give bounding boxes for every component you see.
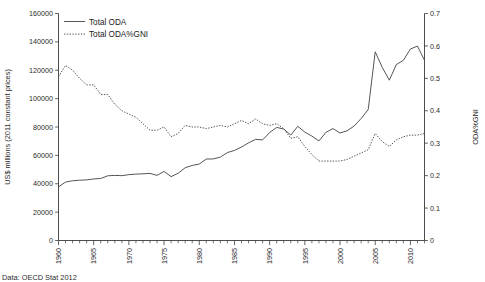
y-tick-label: 40000: [33, 179, 53, 188]
y2-tick-label: 0.4: [430, 106, 440, 115]
y2-axis-title: ODA%GNI: [471, 109, 480, 145]
source-note-text: Data: OECD Stat 2012: [2, 273, 77, 282]
x-tick-label: 2010: [406, 248, 415, 264]
y-tick-label: 140000: [29, 37, 53, 46]
y-tick-label: 20000: [33, 208, 53, 217]
y2-tick-label: 0: [430, 236, 434, 245]
data-series-group: [59, 46, 425, 187]
y-axis-title: US$ millions (2011 constant prices): [3, 69, 12, 185]
x-tick-label: 2000: [336, 248, 345, 264]
axis-titles: US$ millions (2011 constant prices)ODA%G…: [3, 69, 480, 185]
y-axis-ticks: 0200004000060000800001000001200001400001…: [29, 9, 58, 245]
y2-tick-label: 0.7: [430, 9, 440, 18]
y2-tick-label: 0.5: [430, 74, 440, 83]
y-tick-label: 100000: [29, 94, 53, 103]
x-tick-label: 1965: [89, 248, 98, 264]
x-tick-label: 1980: [195, 248, 204, 264]
x-axis-ticks: 1960196519701975198019851990199520002005…: [54, 241, 424, 265]
legend-label: Total ODA%GNI: [89, 30, 148, 39]
x-tick-label: 1970: [125, 248, 134, 264]
chart-legend: Total ODATotal ODA%GNI: [64, 18, 148, 40]
x-tick-label: 2005: [371, 248, 380, 264]
legend-label: Total ODA: [89, 18, 127, 27]
y-tick-label: 80000: [33, 123, 53, 132]
y2-tick-label: 0.1: [430, 204, 440, 213]
x-tick-label: 1975: [160, 248, 169, 264]
x-tick-label: 1960: [54, 248, 63, 264]
source-note: Data: OECD Stat 2012: [2, 273, 77, 282]
y-tick-label: 120000: [29, 66, 53, 75]
y2-tick-label: 0.6: [430, 42, 440, 51]
x-tick-label: 1985: [230, 248, 239, 264]
y2-tick-label: 0.3: [430, 139, 440, 148]
y-tick-label: 60000: [33, 151, 53, 160]
y2-tick-label: 0.2: [430, 171, 440, 180]
line-chart: 0200004000060000800001000001200001400001…: [0, 0, 485, 282]
secondary-y-axis-ticks: 00.10.20.30.40.50.60.7: [425, 9, 441, 245]
series-line-solid: [59, 46, 425, 187]
x-tick-label: 1995: [301, 248, 310, 264]
chart-axes: [59, 14, 425, 241]
x-tick-label: 1990: [265, 248, 274, 264]
y-tick-label: 160000: [29, 9, 53, 18]
y-tick-label: 0: [49, 236, 53, 245]
chart-container: 0200004000060000800001000001200001400001…: [0, 0, 485, 282]
